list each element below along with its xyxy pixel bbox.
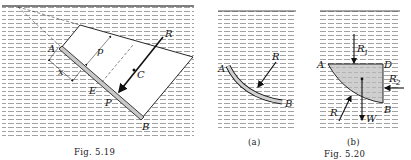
label-c: C: [137, 69, 145, 80]
label-r: R: [164, 28, 173, 39]
label-e: E: [88, 85, 97, 96]
figure-5-20b: A B D R 1 R 2 R W (b): [316, 10, 404, 147]
label-b: B: [284, 98, 292, 109]
figure-5-20a: A B R (a): [217, 10, 296, 147]
figure-5-19: A B C E P R p x Fig. 5.19: [2, 6, 194, 157]
label-d: D: [383, 59, 392, 70]
label-r2-sub: 2: [395, 79, 401, 87]
label-w: W: [366, 113, 377, 124]
centroid-point: [133, 69, 136, 72]
label-a: A: [47, 43, 55, 54]
label-b: B: [141, 121, 149, 132]
label-p-point: P: [104, 97, 112, 108]
label-r: R: [329, 107, 338, 118]
caption-panel-a: (a): [248, 137, 261, 147]
label-r1-sub: 1: [364, 49, 368, 57]
label-b: B: [383, 104, 391, 115]
label-p-dim: p: [97, 45, 104, 56]
caption-fig-5-20: Fig. 5.20: [324, 149, 365, 159]
label-x: x: [58, 66, 64, 77]
label-a: A: [217, 63, 225, 74]
caption-panel-b: (b): [347, 137, 360, 147]
caption-fig-5-19: Fig. 5.19: [74, 147, 115, 157]
centroid-point: [361, 78, 364, 81]
label-r: R: [271, 51, 280, 62]
label-a: A: [316, 59, 324, 70]
